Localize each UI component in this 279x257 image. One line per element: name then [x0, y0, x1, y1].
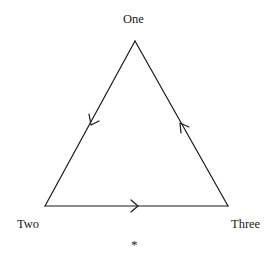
edge-one-two [45, 41, 135, 206]
footnote-asterisk: * [131, 238, 138, 251]
node-label-two: Two [17, 218, 39, 231]
node-label-one: One [123, 13, 144, 26]
node-label-three: Three [231, 218, 260, 231]
triangle-diagram: One Two Three * [0, 0, 279, 257]
